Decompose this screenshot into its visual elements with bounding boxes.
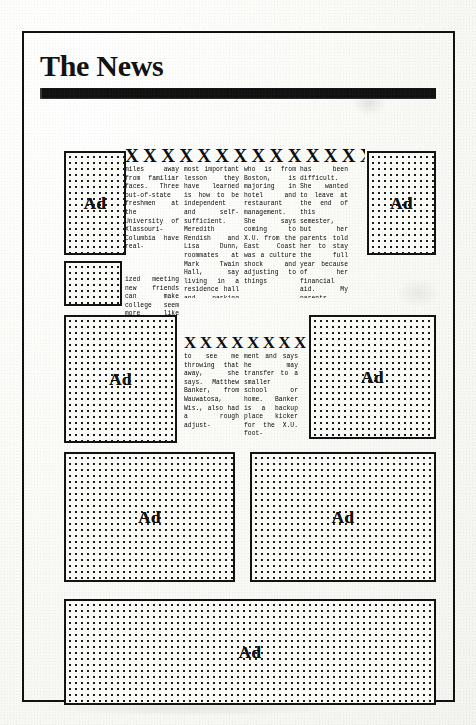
column-text: most important lesson they have learned … bbox=[184, 166, 239, 298]
ad-label: Ad bbox=[332, 509, 355, 526]
column-text: miles away from familiar faces. Three ou… bbox=[125, 166, 179, 252]
ad-label: Ad bbox=[361, 369, 384, 386]
column-text: has been difficult. She wanted to leave … bbox=[300, 166, 348, 298]
ad-label: Ad bbox=[138, 509, 161, 526]
ad-placeholder-banner[interactable]: Ad bbox=[64, 599, 436, 705]
story-1-column-3: who is from Boston, is majoring in hotel… bbox=[244, 166, 296, 298]
ad-label: Ad bbox=[239, 644, 262, 661]
ad-placeholder-mid-left-small[interactable] bbox=[64, 261, 122, 306]
column-text: to see me throwing that away, she says. … bbox=[184, 353, 239, 430]
ad-placeholder-lower-left[interactable]: Ad bbox=[64, 452, 235, 582]
ad-label: Ad bbox=[84, 195, 107, 212]
ad-placeholder-lower-right[interactable]: Ad bbox=[250, 452, 436, 582]
ad-placeholder-mid-left[interactable]: Ad bbox=[64, 315, 177, 443]
masthead-rule bbox=[40, 88, 436, 99]
ad-placeholder-top-right[interactable]: Ad bbox=[367, 151, 436, 255]
column-text: ment and says he may transfer to a small… bbox=[244, 353, 298, 439]
story-1-column-2: most important lesson they have learned … bbox=[184, 166, 239, 298]
column-text: who is from Boston, is majoring in hotel… bbox=[244, 166, 296, 286]
story-1-headline: X X X X X X X X X X X X X X X X X X X bbox=[125, 146, 365, 165]
ad-placeholder-top-left[interactable]: Ad bbox=[64, 151, 126, 255]
ad-placeholder-mid-right[interactable]: Ad bbox=[309, 315, 436, 439]
page-title: The News bbox=[40, 50, 440, 82]
story-2-column-2: ment and says he may transfer to a small… bbox=[244, 353, 298, 441]
story-2-column-1: to see me throwing that away, she says. … bbox=[184, 353, 239, 441]
ad-label: Ad bbox=[109, 371, 132, 388]
story-1-column-4: has been difficult. She wanted to leave … bbox=[300, 166, 348, 298]
story-2-headline: X X X X X X X X X X X bbox=[184, 334, 306, 351]
masthead: The News bbox=[40, 50, 440, 99]
ad-label: Ad bbox=[390, 195, 413, 212]
newspaper-page-frame: The News X X X X X X X X X X X X X X X X… bbox=[22, 31, 455, 702]
story-1-column-1: miles away from familiar faces. Three ou… bbox=[125, 166, 179, 272]
